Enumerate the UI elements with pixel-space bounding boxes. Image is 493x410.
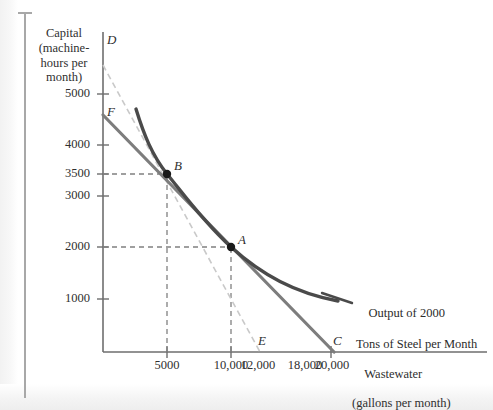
isoquant-annotation: Output of 2000 Tons of Steel per Month (356, 290, 477, 384)
y-axis-title: Capital (machine- hours per month) (28, 26, 100, 85)
point-label-b: B (174, 158, 182, 173)
point-label-d: D (107, 32, 116, 47)
point-marker-a (227, 243, 235, 251)
x-tick-label-20000: 20,000 (302, 358, 362, 373)
point-label-c: C (333, 333, 342, 348)
x-tick-label-5000: 5000 (137, 358, 197, 373)
isoquant-annotation-line1: Output of 2000 (369, 306, 445, 320)
point-label-f: F (107, 104, 115, 119)
point-label-a: A (238, 232, 246, 247)
y-tick-label-5000: 5000 (36, 86, 90, 101)
x-axis-title-line2: (gallons per month) (352, 396, 488, 410)
y-tick-label-3500: 3500 (36, 166, 90, 181)
isoquant-curve (136, 109, 338, 301)
y-tick-label-2000: 2000 (36, 239, 90, 254)
figure-page: Capital (machine- hours per month) Waste… (0, 0, 493, 410)
isocost-line-de (103, 65, 260, 352)
y-tick-label-4000: 4000 (36, 137, 90, 152)
point-marker-b (163, 170, 171, 178)
y-tick-label-1000: 1000 (36, 291, 90, 306)
point-label-e: E (258, 333, 266, 348)
isoquant-annotation-line2: Tons of Steel per Month (356, 337, 477, 353)
y-tick-label-3000: 3000 (36, 188, 90, 203)
